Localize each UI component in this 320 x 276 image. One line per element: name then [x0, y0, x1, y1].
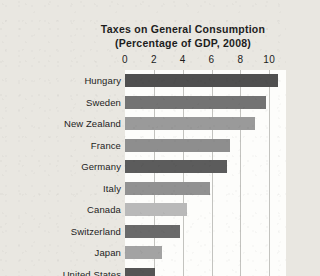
x-tick-label-4: 4 [180, 54, 186, 66]
bar-sweden [125, 96, 266, 109]
x-tick-label-0: 0 [122, 54, 128, 66]
bar-italy [125, 182, 210, 195]
category-label-hungary: Hungary [40, 75, 121, 86]
bar-switzerland [125, 225, 180, 238]
category-label-italy: Italy [40, 183, 121, 194]
bar-united-states [125, 268, 155, 276]
x-tick-label-2: 2 [151, 54, 157, 66]
bar-japan [125, 246, 162, 259]
category-label-canada: Canada [40, 204, 121, 215]
category-label-switzerland: Switzerland [40, 226, 121, 237]
bar-france [125, 139, 230, 152]
category-label-united-states: United States [40, 269, 121, 276]
bar-canada [125, 203, 187, 216]
chart-title: Taxes on General Consumption [40, 22, 286, 36]
category-axis-labels: HungarySwedenNew ZealandFranceGermanyIta… [40, 70, 121, 276]
bar-new-zealand [125, 117, 255, 130]
category-label-france: France [40, 140, 121, 151]
chart-title-block: Taxes on General Consumption (Percentage… [40, 22, 286, 50]
plot-area [125, 70, 286, 276]
bar-germany [125, 160, 227, 173]
category-label-japan: Japan [40, 247, 121, 258]
x-tick-label-8: 8 [237, 54, 243, 66]
bar-hungary [125, 74, 278, 87]
category-label-germany: Germany [40, 161, 121, 172]
x-tick-label-6: 6 [209, 54, 215, 66]
x-axis-tick-labels: 024681012 [40, 54, 286, 68]
bar-chart-figure: Taxes on General Consumption (Percentage… [40, 16, 286, 276]
chart-subtitle: (Percentage of GDP, 2008) [40, 36, 286, 50]
gridline-10 [269, 70, 270, 276]
category-label-sweden: Sweden [40, 97, 121, 108]
category-label-new-zealand: New Zealand [40, 118, 121, 129]
x-tick-label-10: 10 [263, 54, 275, 66]
